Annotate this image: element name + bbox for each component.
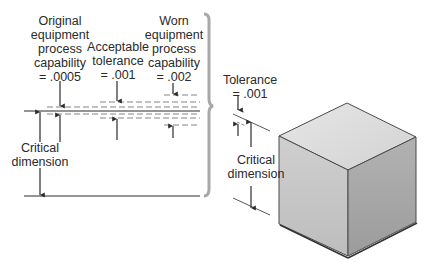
- label-line: Tolerance: [222, 73, 278, 87]
- label-tolerance-right: Tolerance = .001: [222, 73, 278, 101]
- label-line: equipment: [140, 28, 208, 42]
- label-line: Critical: [10, 141, 70, 155]
- cube: [279, 103, 417, 258]
- label-line: capability: [140, 56, 208, 70]
- label-line: Worn: [140, 14, 208, 28]
- label-critical-dimension-left: Critical dimension: [10, 141, 70, 169]
- label-line: = .002: [140, 70, 208, 84]
- label-line: Original: [24, 14, 96, 28]
- label-worn-capability: Worn equipment process capability = .002: [140, 14, 208, 84]
- left-panel-lines: [24, 81, 200, 196]
- label-line: dimension: [226, 167, 286, 181]
- label-critical-dimension-right: Critical dimension: [226, 153, 286, 181]
- label-line: process: [140, 42, 208, 56]
- label-line: = .001: [222, 87, 278, 101]
- label-line: Critical: [226, 153, 286, 167]
- label-line: dimension: [10, 155, 70, 169]
